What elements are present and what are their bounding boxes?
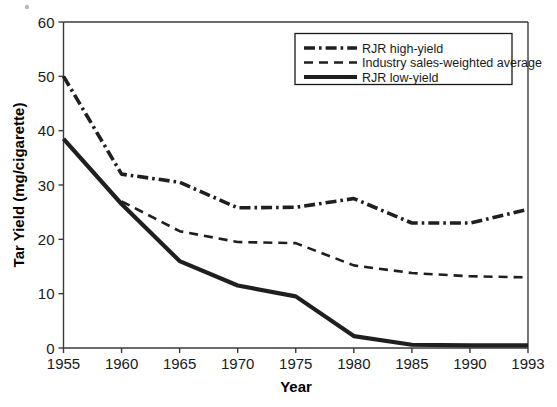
y-axis-ticks (59, 22, 64, 348)
scan-speck (25, 5, 29, 9)
tar-yield-line-chart: 0102030405060 19551960196519701975198019… (0, 0, 557, 407)
x-tick-label: 1980 (337, 355, 370, 372)
x-tick-label: 1965 (163, 355, 196, 372)
legend-label-industry-sales-weighted-average: Industry sales-weighted average (362, 56, 542, 70)
y-tick-label: 20 (38, 231, 55, 248)
x-axis-ticks (64, 348, 529, 353)
y-axis-tick-labels: 0102030405060 (38, 14, 55, 357)
x-tick-label: 1993 (511, 355, 544, 372)
x-tick-label: 1990 (453, 355, 486, 372)
y-tick-label: 40 (38, 122, 55, 139)
x-axis-tick-labels: 195519601965197019751980198519901993 (47, 355, 545, 372)
data-series-group (64, 76, 529, 345)
y-tick-label: 0 (46, 340, 54, 357)
legend-label-rjr-low-yield: RJR low-yield (362, 71, 438, 85)
x-tick-label: 1975 (279, 355, 312, 372)
x-tick-label: 1960 (105, 355, 138, 372)
y-tick-label: 60 (38, 14, 55, 31)
x-axis-title: Year (280, 378, 312, 395)
y-tick-label: 30 (38, 177, 55, 194)
x-tick-label: 1955 (47, 355, 80, 372)
y-axis-title: Tar Yield (mg/cigarette) (10, 103, 27, 268)
y-tick-label: 50 (38, 68, 55, 85)
legend-label-rjr-high-yield: RJR high-yield (362, 42, 443, 56)
x-tick-label: 1985 (395, 355, 428, 372)
y-tick-label: 10 (38, 285, 55, 302)
series-line-industry-sales-weighted-average (122, 201, 528, 277)
chart-canvas: 0102030405060 19551960196519701975198019… (0, 0, 557, 407)
series-line-rjr-high-yield (64, 76, 529, 223)
x-tick-label: 1970 (221, 355, 254, 372)
legend: RJR high-yieldIndustry sales-weighted av… (295, 34, 542, 85)
